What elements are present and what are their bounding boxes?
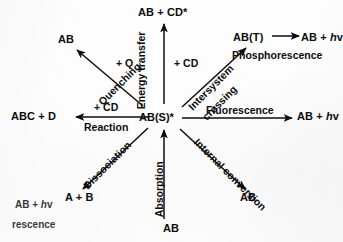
node-hub-excited-singlet: AB(S)* [139,111,174,123]
node-fluorescence-product: AB + hv [297,111,339,122]
node-reaction-product: ABC + D [11,111,56,122]
overlay-fragment-line1: AB + hv [15,200,53,210]
process-label-phosphorescence: Phosphorescence [232,50,322,61]
diagram-canvas: AB + CD* AB AB(T) AB + hv ABC + D AB(S)*… [0,0,343,242]
node-phosphorescence-product: AB + hv [301,32,343,43]
process-label-reaction: Reaction [84,122,128,133]
node-quenching-product: AB [58,34,74,45]
overlay-fragment-line2: rescence [12,220,55,230]
node-dissociation-product: A + B [65,192,94,203]
node-triplet: AB(T) [233,32,263,43]
reagent-energy-acceptor: + CD [174,58,198,69]
node-ground-state: AB [163,223,179,234]
process-label-absorption: Absorption [154,161,165,217]
node-energy-transfer-product: AB + CD* [138,7,187,18]
process-label-fluorescence: Fluorescence [206,105,274,116]
